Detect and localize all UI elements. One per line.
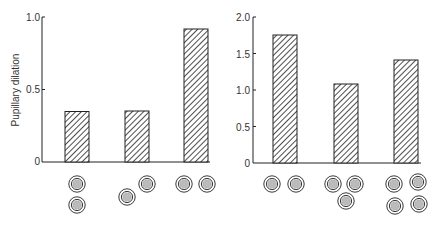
eye-icon — [288, 176, 304, 192]
y-tick: 0.5 — [236, 122, 250, 133]
bar — [394, 60, 418, 163]
bar — [334, 84, 358, 163]
y-tick: 1.0 — [26, 12, 40, 23]
eye-icon — [139, 176, 155, 192]
eye-icon — [176, 176, 192, 192]
eye-icon — [338, 193, 354, 209]
eye-icon — [69, 197, 85, 213]
y-tick: 0 — [244, 158, 250, 169]
eye-icon — [386, 176, 402, 192]
y-tick: 1.0 — [236, 85, 250, 96]
left-chart: Pupillary dilation 1.0 0.5 0 — [10, 12, 215, 213]
category-icon-group — [69, 176, 85, 213]
y-tick: 0.5 — [26, 84, 40, 95]
y-tick: 0 — [34, 156, 40, 167]
y-axis-label: Pupillary dilation — [10, 54, 21, 127]
bar — [184, 29, 208, 162]
eye-icon — [199, 176, 215, 192]
category-icon-group — [119, 176, 155, 205]
category-icon-group — [325, 176, 363, 209]
bar — [273, 35, 297, 163]
eye-icon — [347, 176, 363, 192]
bar — [125, 111, 149, 162]
category-icon-group — [386, 174, 427, 214]
category-icon-group — [176, 176, 215, 192]
eye-icon — [264, 176, 280, 192]
eye-icon — [387, 198, 403, 214]
bar — [65, 112, 89, 163]
eye-icon — [119, 189, 135, 205]
eye-icon — [411, 196, 427, 212]
eye-icon — [325, 176, 341, 192]
right-chart: 2.0 1.5 1.0 0.5 0 — [236, 12, 427, 214]
eye-icon — [410, 174, 426, 190]
figure: Pupillary dilation 1.0 0.5 0 2.0 — [0, 0, 438, 226]
eye-icon — [69, 176, 85, 192]
category-icon-group — [264, 176, 304, 192]
y-tick: 2.0 — [236, 12, 250, 23]
y-tick: 1.5 — [236, 49, 250, 60]
